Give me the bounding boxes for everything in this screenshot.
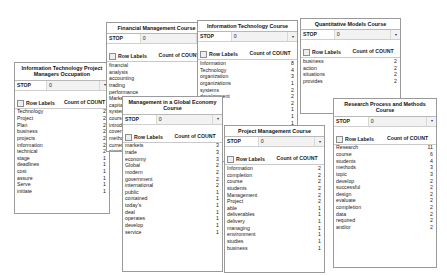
filter-value[interactable]: 0 — [141, 34, 197, 43]
row-labels-header[interactable]: Row Labels — [334, 136, 387, 143]
table-row: deadlines1 — [15, 162, 109, 169]
chevron-down-icon[interactable]: ▾ — [391, 30, 400, 39]
row-label: Management — [225, 193, 286, 198]
table-row: markets3 — [123, 143, 222, 150]
spacer — [198, 42, 297, 50]
filter-row[interactable]: STOP 0 ▾ — [107, 34, 206, 44]
table-row: Global2 — [123, 163, 222, 170]
row-value: 2 — [259, 94, 297, 99]
filter-row[interactable]: STOP 0 ▾ — [301, 30, 400, 40]
pivot-panel-global-economy[interactable]: Management in a Global Economy Course ST… — [122, 96, 223, 272]
row-label: technical — [15, 149, 73, 154]
table-row: situations2 — [301, 72, 400, 79]
filter-icon[interactable] — [200, 51, 207, 58]
pivot-panel-itpm[interactable]: Information Technology Project Managers … — [14, 62, 110, 214]
panel-title: Management in a Global Economy Course — [123, 97, 222, 115]
table-row: operates1 — [123, 216, 222, 223]
row-value: 3 — [397, 165, 436, 170]
row-value: 2 — [397, 185, 436, 190]
row-value: 1 — [286, 239, 324, 244]
filter-value[interactable]: 0 — [47, 81, 100, 90]
row-value: 1 — [73, 156, 109, 161]
row-label: organization — [198, 74, 259, 79]
row-label: methods — [334, 165, 397, 170]
row-labels-header[interactable]: Row Labels — [198, 51, 249, 58]
table-row: topic3 — [334, 171, 436, 178]
rows-container: Technology2 Project2 Plan2 business2 pro… — [15, 109, 109, 195]
filter-value[interactable]: 0 — [369, 117, 427, 126]
table-row: cost1 — [15, 169, 109, 176]
row-labels-header[interactable]: Row Labels — [107, 53, 158, 60]
row-labels-header[interactable]: Row Labels — [301, 49, 352, 56]
table-row: modern2 — [123, 169, 222, 176]
table-row: systems2 — [198, 87, 297, 94]
table-row: information2 — [15, 142, 109, 149]
count-header: Count of COUNT — [276, 156, 324, 163]
table-row: managing1 — [225, 225, 324, 232]
row-value: 2 — [184, 183, 222, 188]
filter-label: STOP — [123, 115, 157, 124]
filter-label: STOP — [225, 137, 259, 146]
row-label: international — [123, 183, 184, 188]
row-value: 1 — [73, 169, 109, 174]
filter-value[interactable]: 0 — [232, 32, 288, 41]
row-label: delivery — [225, 219, 286, 224]
table-row: able1 — [225, 205, 324, 212]
row-value: 2 — [73, 143, 109, 148]
row-label: students — [225, 186, 286, 191]
row-value: 1 — [184, 210, 222, 215]
row-label: completion — [334, 205, 397, 210]
table-row: provides2 — [301, 78, 400, 85]
filter-value[interactable]: 0 — [335, 30, 391, 39]
table-row: accounting2 — [107, 76, 206, 83]
row-value: 2 — [259, 101, 297, 106]
chevron-down-icon[interactable]: ▾ — [213, 115, 222, 124]
filter-icon[interactable] — [125, 134, 132, 141]
filter-row[interactable]: STOP 0 ▾ — [334, 117, 436, 127]
row-label: Serve — [15, 182, 73, 187]
filter-row[interactable]: STOP 0 ▾ — [123, 115, 222, 125]
row-value: 2 — [73, 109, 109, 114]
filter-row[interactable]: STOP 0 ▾ — [198, 32, 297, 42]
filter-value[interactable]: 0 — [259, 137, 315, 146]
row-labels-header[interactable]: Row Labels — [15, 100, 64, 107]
filter-icon[interactable] — [109, 53, 116, 60]
chevron-down-icon[interactable]: ▾ — [288, 32, 297, 41]
row-value: 4 — [259, 68, 297, 73]
table-row: technical2 — [15, 149, 109, 156]
pivot-panel-research-process[interactable]: Research Process and Methods Course STOP… — [333, 98, 437, 268]
row-label: Project — [225, 199, 286, 204]
filter-row[interactable]: STOP 0 ▾ — [15, 81, 109, 91]
count-header: Count of COUNT — [64, 100, 109, 107]
pivot-panel-project-management[interactable]: Project Management Course STOP 0 ▾ Row L… — [224, 125, 325, 273]
row-value: 3 — [259, 74, 297, 79]
row-label: systems — [198, 88, 259, 93]
rows-container: Research11 course6 students4 methods3 to… — [334, 145, 436, 231]
filter-icon[interactable] — [17, 100, 24, 107]
chevron-down-icon[interactable]: ▾ — [315, 137, 324, 146]
row-value: 1 — [73, 176, 109, 181]
row-value: 11 — [397, 145, 436, 150]
row-value: 2 — [286, 186, 324, 191]
filter-icon[interactable] — [227, 156, 234, 163]
panel-title: Information Technology Project Managers … — [15, 63, 109, 81]
table-row: action2 — [301, 65, 400, 72]
filter-icon[interactable] — [303, 49, 310, 56]
filter-row[interactable]: STOP 0 ▾ — [225, 137, 324, 147]
row-label: today's — [123, 203, 184, 208]
row-label: provides — [301, 79, 362, 84]
row-labels-header[interactable]: Row Labels — [123, 134, 174, 141]
row-value: 3 — [184, 143, 222, 148]
panel-title: Research Process and Methods Course — [334, 99, 436, 117]
row-label: financial — [107, 63, 168, 68]
filter-icon[interactable] — [336, 136, 343, 143]
row-value: 1 — [184, 196, 222, 201]
row-labels-header-text: Row Labels — [236, 157, 265, 162]
row-value: 2 — [362, 59, 400, 64]
row-label: Research — [334, 145, 397, 150]
chevron-down-icon[interactable]: ▾ — [427, 117, 436, 126]
row-label: design — [334, 192, 397, 197]
row-labels-header[interactable]: Row Labels — [225, 156, 276, 163]
row-label: course — [225, 179, 286, 184]
filter-value[interactable]: 0 — [157, 115, 213, 124]
